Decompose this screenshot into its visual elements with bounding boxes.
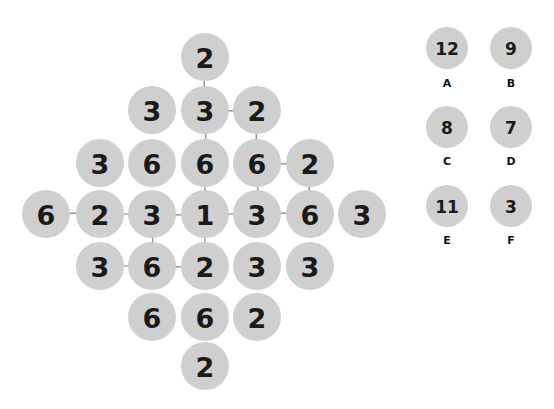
board-node[interactable]: 2 [181,33,229,81]
node-value: 3 [248,252,267,283]
legend-key: E [443,234,451,247]
legend-value: 7 [505,118,517,138]
node-value: 3 [91,252,110,283]
legend-key: B [507,77,515,90]
node-value: 2 [248,303,267,334]
board-node[interactable]: 6 [22,190,70,238]
node-circles-layer: 2332366626231363362336622 [22,33,386,390]
board-node[interactable]: 6 [128,293,176,341]
legend-value: 12 [435,39,459,59]
node-value: 2 [301,149,320,180]
board-node[interactable]: 3 [233,190,281,238]
node-value: 1 [196,200,215,231]
node-value: 6 [196,149,215,180]
node-value: 3 [91,149,110,180]
node-value: 3 [143,200,162,231]
node-value: 6 [37,200,56,231]
board-node[interactable]: 3 [128,86,176,134]
node-value: 3 [143,96,162,127]
board-node[interactable]: 2 [76,190,124,238]
board-node[interactable]: 3 [76,242,124,290]
legend-item[interactable]: 11E [426,185,468,247]
legend-item[interactable]: 9B [490,27,532,90]
legend-item[interactable]: 7D [490,106,532,168]
node-value: 2 [91,200,110,231]
node-value: 2 [196,43,215,74]
node-value: 6 [301,200,320,231]
node-value: 6 [248,149,267,180]
node-value: 3 [248,200,267,231]
board-node[interactable]: 3 [338,190,386,238]
node-value: 3 [301,252,320,283]
board-node[interactable]: 6 [128,139,176,187]
diagram-stage: 2332366626231363362336622 12A9B8C7D11E3F [0,0,554,409]
board-node[interactable]: 6 [181,293,229,341]
legend-value: 3 [505,197,517,217]
legend-key: C [443,155,451,168]
legend-key: F [507,234,515,247]
node-value: 6 [143,303,162,334]
legend-key: D [506,155,515,168]
board-node[interactable]: 2 [181,242,229,290]
legend-value: 8 [441,118,453,138]
node-value: 3 [353,200,372,231]
legend-item[interactable]: 3F [490,185,532,247]
board-node[interactable]: 2 [233,86,281,134]
puzzle-board-svg: 2332366626231363362336622 12A9B8C7D11E3F [0,0,554,409]
board-node[interactable]: 1 [181,190,229,238]
node-value: 6 [143,149,162,180]
node-value: 2 [196,352,215,383]
legend-item[interactable]: 8C [426,106,468,168]
legend-key: A [443,77,452,90]
legend-value: 9 [505,39,517,59]
legend-value: 11 [435,197,459,217]
board-node[interactable]: 6 [181,139,229,187]
board-node[interactable]: 2 [233,293,281,341]
board-node[interactable]: 3 [286,242,334,290]
node-value: 2 [196,252,215,283]
board-node[interactable]: 3 [128,190,176,238]
node-value: 6 [196,303,215,334]
board-node[interactable]: 6 [233,139,281,187]
legend-item[interactable]: 12A [426,27,468,90]
board-node[interactable]: 6 [128,242,176,290]
board-node[interactable]: 3 [181,86,229,134]
node-value: 2 [248,96,267,127]
board-node[interactable]: 3 [76,139,124,187]
legend-layer: 12A9B8C7D11E3F [426,27,532,247]
board-node[interactable]: 6 [286,190,334,238]
node-value: 6 [143,252,162,283]
board-node[interactable]: 2 [286,139,334,187]
node-value: 3 [196,96,215,127]
board-node[interactable]: 2 [181,342,229,390]
board-node[interactable]: 3 [233,242,281,290]
